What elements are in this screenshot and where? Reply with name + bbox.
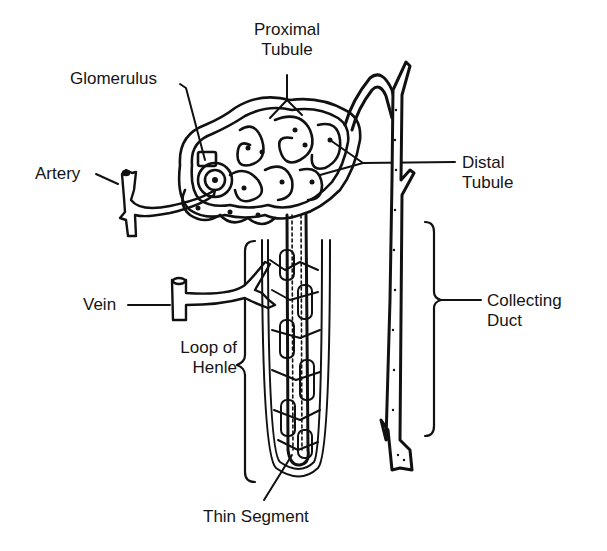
label-collecting-duct: Collecting Duct bbox=[487, 291, 562, 331]
collecting-duct bbox=[381, 62, 414, 470]
label-artery: Artery bbox=[35, 164, 80, 184]
label-proximal-line1: Proximal bbox=[244, 20, 330, 40]
label-proximal-tubule: Proximal Tubule bbox=[244, 20, 330, 60]
label-collecting-line1: Collecting bbox=[487, 291, 562, 311]
label-glomerulus: Glomerulus bbox=[70, 69, 157, 89]
nephron-diagram: Proximal Tubule Glomerulus Artery Distal… bbox=[0, 0, 607, 551]
label-vein: Vein bbox=[83, 295, 116, 315]
collecting-duct-brace bbox=[425, 222, 441, 436]
label-distal-tubule: Distal Tubule bbox=[462, 153, 513, 193]
artery-vessel bbox=[120, 170, 215, 236]
label-collecting-line2: Duct bbox=[487, 311, 562, 331]
label-proximal-line2: Tubule bbox=[244, 40, 330, 60]
connecting-tubule bbox=[345, 75, 398, 125]
label-loop-line2: Henle bbox=[155, 358, 237, 378]
peritubular-capillaries bbox=[262, 240, 330, 477]
label-thin-segment: Thin Segment bbox=[203, 507, 309, 527]
loop-of-henle bbox=[287, 215, 308, 465]
label-distal-line2: Tubule bbox=[462, 173, 513, 193]
label-distal-line1: Distal bbox=[462, 153, 513, 173]
label-loop-of-henle: Loop of Henle bbox=[155, 338, 237, 378]
vein-vessel bbox=[172, 262, 275, 320]
label-loop-line1: Loop of bbox=[155, 338, 237, 358]
convoluted-tubules bbox=[179, 97, 360, 224]
